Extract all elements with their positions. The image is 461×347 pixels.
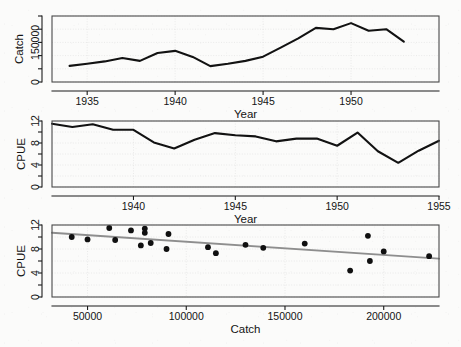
y-tick-label: 8: [29, 246, 41, 252]
grid-catch-vs-year: [52, 16, 439, 82]
x-tick-label: 1940: [122, 200, 146, 212]
x-tick-label: 1945: [251, 95, 275, 107]
data-point: [365, 233, 371, 239]
x-tick-label: 1950: [339, 95, 363, 107]
data-point: [142, 230, 148, 236]
data-point: [148, 240, 154, 246]
data-point: [106, 225, 112, 231]
y-tick-label: 12: [29, 219, 41, 231]
data-point: [367, 258, 373, 264]
x-tick-label: 1940: [163, 95, 187, 107]
y-axis-title-cpue-vs-year: CPUE: [15, 138, 27, 170]
scatter-points: [69, 225, 432, 273]
figure-container: 0150000Catch1935194019451950Year04812CPU…: [0, 0, 461, 347]
data-point: [166, 231, 172, 237]
data-point: [347, 268, 353, 274]
x-tick-label: 50000: [73, 310, 102, 322]
data-point: [381, 249, 387, 255]
x-axis-title-cpue-vs-catch: Catch: [230, 323, 260, 335]
y-tick-label: 0: [29, 294, 41, 300]
x-axis-title-cpue-vs-year: Year: [234, 213, 257, 225]
data-point: [112, 237, 118, 243]
data-point: [302, 241, 308, 247]
y-tick-label: 4: [29, 270, 41, 276]
data-point: [164, 246, 170, 252]
x-tick-label: 1945: [224, 200, 248, 212]
y-tick-label: 8: [29, 140, 41, 146]
x-tick-label: 150000: [267, 310, 302, 322]
y-tick-label: 0: [29, 184, 41, 190]
data-point: [243, 242, 249, 248]
data-point: [426, 253, 432, 259]
panel-cpue-vs-catch: 04812CPUE50000100000150000200000Catch: [15, 219, 439, 335]
y-tick-label: 150000: [29, 25, 41, 60]
x-tick-label: 100000: [169, 310, 204, 322]
x-tick-label: 1955: [427, 200, 451, 212]
data-point: [213, 250, 219, 256]
data-point: [128, 228, 134, 234]
y-tick-label: 0: [29, 79, 41, 85]
x-axis-title-catch-vs-year: Year: [234, 108, 257, 120]
y-tick-label: 12: [29, 115, 41, 127]
data-point: [85, 237, 91, 243]
data-line-cpue-vs-year: [52, 124, 439, 163]
panel-catch-vs-year: 0150000Catch1935194019451950Year: [13, 16, 439, 120]
x-tick-label: 1935: [76, 95, 100, 107]
panel-border-catch-vs-year: [52, 16, 439, 82]
y-axis-title-cpue-vs-catch: CPUE: [15, 245, 27, 277]
x-tick-label: 200000: [366, 310, 401, 322]
x-tick-label: 1950: [325, 200, 349, 212]
data-point: [205, 244, 211, 250]
data-point: [260, 245, 266, 251]
data-point: [138, 243, 144, 249]
y-axis-title-catch-vs-year: Catch: [13, 34, 25, 64]
y-tick-label: 4: [29, 162, 41, 168]
multi-panel-figure: 0150000Catch1935194019451950Year04812CPU…: [0, 0, 461, 347]
data-point: [69, 234, 75, 240]
panel-cpue-vs-year: 04812CPUE1940194519501955Year: [15, 115, 451, 225]
data-line-catch-vs-year: [70, 23, 404, 66]
